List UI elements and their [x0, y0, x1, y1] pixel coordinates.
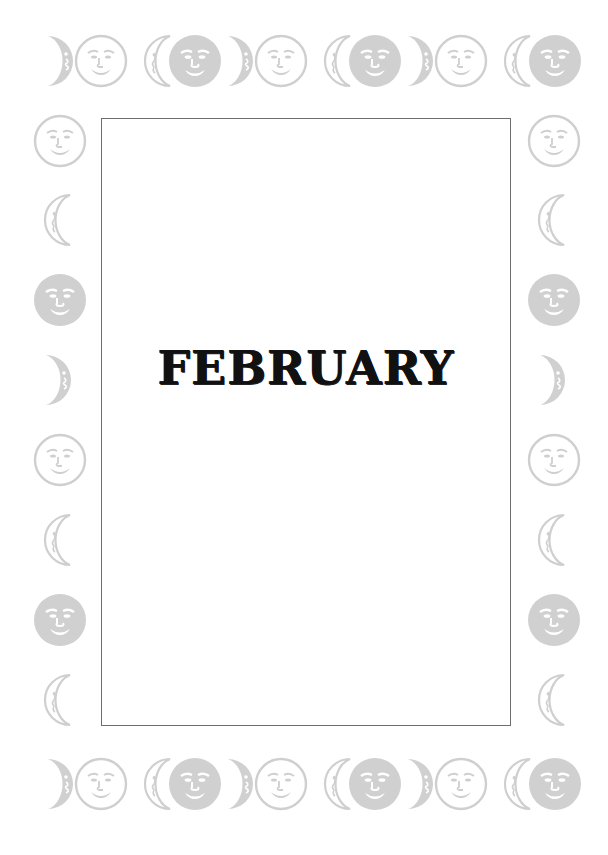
face-filled-icon: [527, 756, 583, 812]
face-outline-icon: [253, 33, 309, 89]
crescent-filled-right-icon: [32, 352, 88, 408]
crescent-filled-right-icon: [526, 352, 582, 408]
face-outline-icon: [433, 33, 489, 89]
face-outline-icon: [32, 113, 88, 169]
face-outline-icon: [433, 756, 489, 812]
face-outline-icon: [253, 756, 309, 812]
crescent-outline-left-icon: [32, 192, 88, 248]
face-outline-icon: [73, 756, 129, 812]
face-outline-icon: [32, 432, 88, 488]
face-filled-icon: [526, 272, 582, 328]
crescent-outline-left-icon: [526, 512, 582, 568]
content-frame: FEBRUARY: [101, 118, 511, 726]
face-filled-icon: [527, 33, 583, 89]
face-outline-icon: [526, 432, 582, 488]
face-filled-icon: [32, 272, 88, 328]
month-title: FEBRUARY: [102, 341, 510, 395]
face-filled-icon: [32, 592, 88, 648]
crescent-outline-left-icon: [526, 672, 582, 728]
face-outline-icon: [73, 33, 129, 89]
calendar-month-cover: FEBRUARY: [0, 0, 608, 855]
face-outline-icon: [526, 113, 582, 169]
crescent-outline-left-icon: [32, 672, 88, 728]
crescent-outline-left-icon: [526, 192, 582, 248]
face-filled-icon: [526, 592, 582, 648]
crescent-outline-left-icon: [32, 512, 88, 568]
